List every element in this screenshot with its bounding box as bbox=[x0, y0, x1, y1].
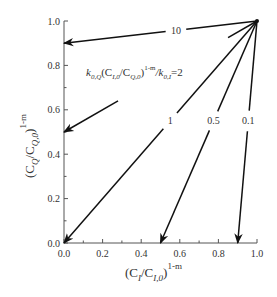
y-tick-label: 0.6 bbox=[48, 104, 61, 115]
x-tick-label: 0.0 bbox=[58, 248, 71, 259]
y-tick-label: 0.8 bbox=[48, 60, 61, 71]
series-label-10: 10 bbox=[171, 25, 181, 36]
series-line-1-b bbox=[64, 129, 163, 243]
y-tick-label: 0.4 bbox=[48, 149, 61, 160]
series-line-2-b bbox=[64, 101, 118, 132]
x-tick-label: 0.8 bbox=[212, 248, 225, 259]
annotation-series-2: k0,Q(CI,0/CQ,0)1-m/k0,I=2 bbox=[86, 64, 183, 81]
y-tick-label: 0.0 bbox=[48, 238, 61, 249]
y-axis-title: (CQ/CQ,0)1-m bbox=[18, 114, 40, 178]
series-group bbox=[64, 19, 259, 243]
series-label-0-1: 0.1 bbox=[242, 115, 255, 126]
series-label-0-5: 0.5 bbox=[207, 115, 220, 126]
series-line-10-b bbox=[64, 32, 166, 44]
y-tick-label: 0.2 bbox=[48, 193, 61, 204]
series-line-0-1-b bbox=[238, 131, 248, 243]
series-line-1-a bbox=[177, 21, 257, 113]
x-tick-label: 0.4 bbox=[135, 248, 148, 259]
x-axis-title: (CI/CI,0)1-m bbox=[125, 261, 182, 283]
series-line-0-5-a bbox=[218, 21, 257, 111]
y-tick-label: 1.0 bbox=[48, 16, 61, 27]
chart: 0.00.20.40.60.81.00.00.20.40.60.81.0 101… bbox=[0, 0, 277, 297]
x-tick-label: 0.6 bbox=[174, 248, 187, 259]
x-tick-label: 0.2 bbox=[96, 248, 109, 259]
convergence-point bbox=[255, 19, 259, 23]
series-line-0-5-b bbox=[161, 130, 210, 243]
series-label-1: 1 bbox=[168, 115, 173, 126]
x-tick-label: 1.0 bbox=[251, 248, 264, 259]
